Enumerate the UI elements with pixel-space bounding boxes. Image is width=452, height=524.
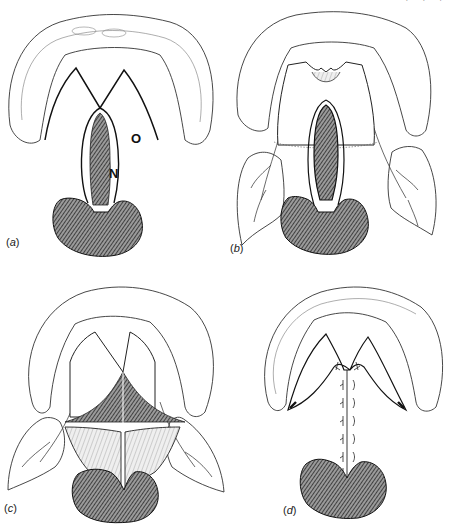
panel-c: (c): [0, 262, 226, 524]
annotation-n: N: [109, 166, 118, 181]
panel-label-a: (a): [6, 236, 19, 248]
panel-a: O N (a): [0, 0, 226, 262]
panel-label-c: (c): [4, 502, 17, 514]
palate-closure-layers-drawing: [0, 262, 226, 524]
annotation-o: O: [131, 131, 141, 146]
palate-repaired-sutured-drawing: [226, 262, 452, 524]
panel-d: (d): [226, 262, 452, 524]
panel-label-b: (b): [230, 242, 243, 254]
palate-cleft-drawing: [0, 0, 226, 262]
palate-flaps-raised-drawing: [226, 0, 452, 262]
panel-label-d: (d): [283, 504, 296, 516]
panel-b: (b): [226, 0, 452, 262]
